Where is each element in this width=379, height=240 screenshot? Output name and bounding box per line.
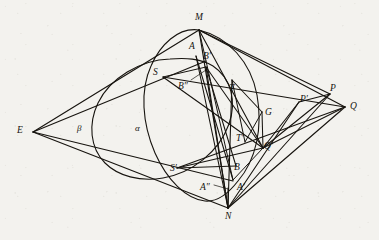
line-E-M <box>33 30 199 132</box>
point-label-E: E <box>17 126 23 136</box>
line-E-tangent-lower <box>33 132 233 181</box>
point-label-A-double-prime: A″ <box>200 183 210 193</box>
point-label-P: P <box>330 84 336 94</box>
point-label-Q-prime: Q′ <box>264 142 273 152</box>
point-label-B: B <box>234 163 240 173</box>
line-P-Qprime <box>263 94 330 148</box>
point-label-S-prime: S′ <box>170 164 177 174</box>
conic-beta <box>92 59 233 180</box>
point-label-B-prime: B′ <box>203 52 211 62</box>
point-label-N: N <box>225 212 231 222</box>
point-label-Q: Q <box>350 102 357 112</box>
leader-Adprime <box>214 185 228 189</box>
figure-canvas <box>0 0 379 240</box>
point-label-G: G <box>265 108 272 118</box>
line-Qprime-Sprime <box>177 148 263 168</box>
line-N-E <box>33 132 228 208</box>
line-Q-N <box>228 107 345 208</box>
leader-Bdprime <box>191 70 206 80</box>
conic-label-alpha: α <box>135 124 140 133</box>
conic-label-beta: β <box>77 124 81 133</box>
point-label-A-prime: A′ <box>237 183 245 193</box>
point-label-T-prime: T′ <box>236 134 243 144</box>
point-label-P-prime: P′ <box>300 95 308 105</box>
point-label-S: S <box>153 68 158 78</box>
point-label-T: T <box>229 84 234 94</box>
line-Qprime-M <box>206 67 263 148</box>
point-label-A: A <box>189 42 195 52</box>
geometry-figure: M A B′ S B″ T G P′ P Q T′ Q′ B S′ A″ A′ … <box>0 0 379 240</box>
line-G-Qprime <box>262 112 263 148</box>
line-E-tangent-upper <box>33 61 206 132</box>
point-label-B-double-prime: B″ <box>178 82 188 92</box>
conic-alpha <box>144 30 259 201</box>
point-label-M: M <box>195 13 203 23</box>
